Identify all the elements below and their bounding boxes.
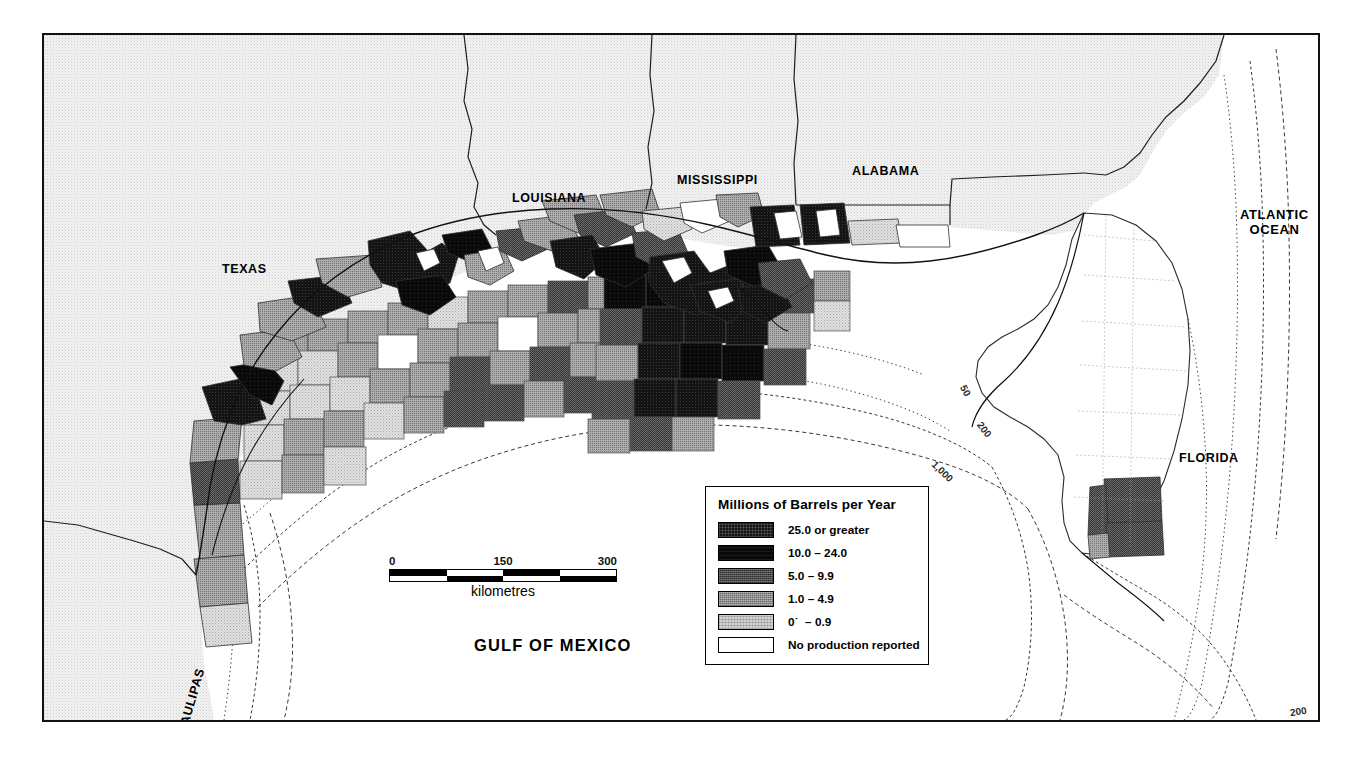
legend-label: No production reported — [788, 638, 920, 652]
scale-tick-300: 300 — [598, 555, 617, 567]
scale-bar-caption: kilometres — [389, 583, 617, 599]
legend-title: Millions of Barrels per Year — [718, 497, 918, 512]
legend-swatch-25-or-greater — [718, 522, 774, 538]
legend-swatch-1-to-4-9 — [718, 591, 774, 607]
legend-row: 0˙ – 0.9 — [718, 613, 918, 630]
legend-label: 1.0 – 4.9 — [788, 592, 834, 606]
scale-bar-graphic — [389, 569, 617, 582]
scale-bar-ticks: 0 150 300 — [389, 555, 617, 569]
scale-segment-2 — [447, 570, 504, 581]
scale-tick-0: 0 — [389, 555, 395, 567]
legend-row: 1.0 – 4.9 — [718, 590, 918, 607]
page-root: TEXAS LOUISIANA MISSISSIPPI ALABAMA FLOR… — [0, 0, 1357, 761]
legend-swatch-no-production — [718, 637, 774, 653]
legend-swatch-5-to-9-9 — [718, 568, 774, 584]
legend-swatch-10-to-24 — [718, 545, 774, 561]
land-mexico-tamaulipas — [44, 533, 214, 720]
legend-label: 10.0 – 24.0 — [788, 546, 847, 560]
legend-label: 0˙ – 0.9 — [788, 615, 831, 629]
scale-segment-3 — [503, 570, 560, 581]
legend-row: No production reported — [718, 636, 918, 653]
scale-segment-4 — [560, 570, 617, 581]
choropleth-map-canvas — [44, 35, 1318, 720]
legend-swatch-0-to-0-9 — [718, 614, 774, 630]
legend-row: 10.0 – 24.0 — [718, 544, 918, 561]
legend-row: 5.0 – 9.9 — [718, 567, 918, 584]
map-legend: Millions of Barrels per Year 25.0 or gre… — [705, 486, 929, 665]
scale-segment-1 — [390, 570, 447, 581]
map-frame: TEXAS LOUISIANA MISSISSIPPI ALABAMA FLOR… — [42, 33, 1320, 722]
legend-row: 25.0 or greater — [718, 521, 918, 538]
scale-tick-150: 150 — [493, 555, 512, 567]
legend-label: 5.0 – 9.9 — [788, 569, 834, 583]
scale-bar: 0 150 300 kilometres — [389, 555, 617, 599]
legend-label: 25.0 or greater — [788, 523, 869, 537]
